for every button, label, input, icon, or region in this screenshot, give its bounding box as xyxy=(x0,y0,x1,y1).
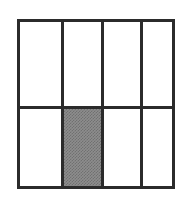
grid-cell-row2-col4[interactable] xyxy=(143,109,172,186)
column-divider-1 xyxy=(61,22,64,186)
grid-inner-area xyxy=(20,22,172,186)
row-divider-1 xyxy=(20,106,172,109)
grid-outer-frame xyxy=(17,19,175,189)
grid-cell-row1-col2[interactable] xyxy=(64,22,101,106)
figure-canvas xyxy=(0,0,191,197)
grid-cell-row1-col1[interactable] xyxy=(20,22,61,106)
grid-cell-row1-col4[interactable] xyxy=(143,22,172,106)
column-divider-2 xyxy=(101,22,104,186)
grid-cell-row2-col2-shaded[interactable] xyxy=(64,109,101,186)
grid-cell-row1-col3[interactable] xyxy=(104,22,140,106)
grid-cell-row2-col3[interactable] xyxy=(104,109,140,186)
grid-cell-row2-col1[interactable] xyxy=(20,109,61,186)
column-divider-3 xyxy=(140,22,143,186)
